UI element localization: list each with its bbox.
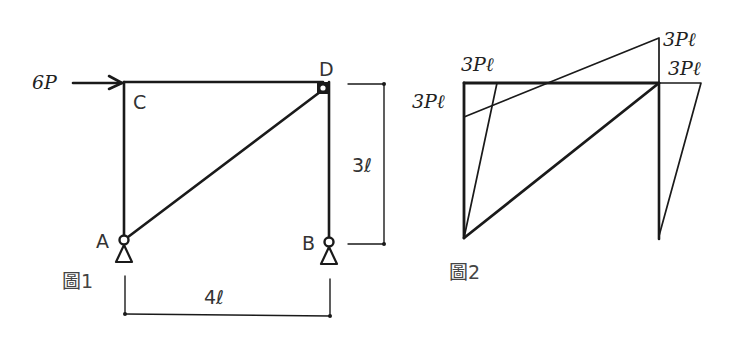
support-a-icon	[116, 245, 132, 262]
figure-1-caption: 圖1	[62, 272, 93, 291]
node-label-d: D	[319, 60, 334, 79]
member-ad	[128, 92, 320, 237]
dim-4l-dot-left	[123, 312, 127, 316]
figure-1	[73, 76, 386, 318]
moment-label-left-column: 3Pℓ	[412, 92, 445, 111]
dim-3l-dot-bottom	[382, 242, 386, 246]
node-label-a: A	[96, 232, 109, 251]
support-b-icon	[321, 247, 337, 264]
dim-4l-line	[125, 314, 330, 316]
structural-diagram	[0, 0, 747, 344]
moment-right-column-line	[659, 83, 701, 236]
dim-3l-dot-top	[382, 82, 386, 86]
frame-diagonal	[464, 83, 659, 238]
moment-label-top-right-lower: 3Pℓ	[668, 59, 701, 78]
hinge-b-icon	[325, 238, 334, 247]
figure-2	[464, 38, 701, 239]
hinge-d-icon	[319, 84, 326, 91]
dimension-label-height: 3ℓ	[352, 156, 372, 175]
moment-label-top-right-upper: 3Pℓ	[663, 30, 696, 49]
node-label-c: C	[133, 93, 146, 112]
hinge-a-icon	[120, 236, 129, 245]
node-label-b: B	[302, 234, 315, 253]
dimension-label-width: 4ℓ	[204, 288, 224, 307]
load-label-6p: 6P	[32, 73, 57, 92]
figure-2-caption: 圖2	[449, 263, 480, 282]
moment-label-top-left: 3Pℓ	[461, 55, 494, 74]
dim-4l-dot-right	[328, 314, 332, 318]
